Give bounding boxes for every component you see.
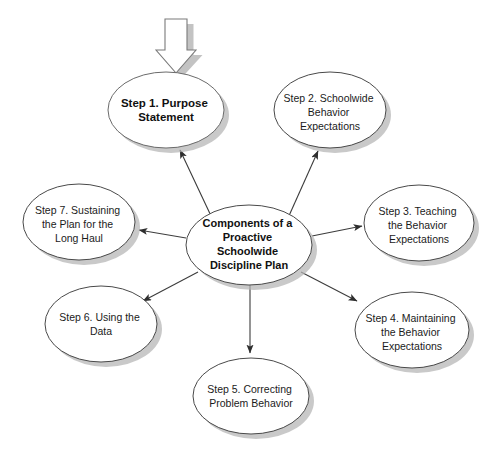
node-hub[interactable]: Components of a Proactive Schoolwide Dis… <box>186 205 317 290</box>
node-step6[interactable]: Step 6. Using the Data <box>45 286 162 367</box>
connector-hub-to-step6 <box>143 272 198 301</box>
node-step2[interactable]: Step 2. Schoolwide Behavior Expectations <box>274 72 391 153</box>
node-step7[interactable]: Step 7. Sustaining the Plan for the Long… <box>23 184 140 265</box>
connector-hub-to-step1 <box>180 150 212 218</box>
node-step3[interactable]: Step 3. Teaching the Behavior Expectatio… <box>364 185 479 266</box>
connector-hub-to-step3 <box>312 226 362 236</box>
connector-hub-to-step7 <box>139 230 186 238</box>
entry-block-arrow <box>156 19 203 78</box>
node-step1-ellipse[interactable] <box>108 72 224 148</box>
diagram-canvas: Step 1. Purpose Statement Step 2. School… <box>0 0 499 459</box>
connector-hub-to-step2 <box>288 151 318 218</box>
node-step4[interactable]: Step 4. Maintaining the Behavior Expecta… <box>355 292 474 373</box>
node-step5[interactable]: Step 5. Correcting Problem Behavior <box>193 358 314 439</box>
schoolwide-discipline-plan-diagram: Step 1. Purpose Statement Step 2. School… <box>0 0 499 459</box>
node-step3-label: Step 3. Teaching the Behavior Expectatio… <box>379 205 460 245</box>
node-step1[interactable]: Step 1. Purpose Statement <box>108 72 229 153</box>
connector-hub-to-step4 <box>301 272 357 301</box>
